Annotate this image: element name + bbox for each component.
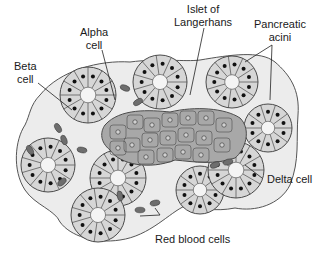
nucleus xyxy=(266,110,270,114)
nucleus xyxy=(215,70,219,74)
islet-nucleus xyxy=(163,153,167,157)
nucleus xyxy=(103,163,107,167)
islet-nucleus xyxy=(168,118,172,122)
nucleus xyxy=(49,145,53,149)
nucleus xyxy=(182,183,186,187)
nucleus xyxy=(91,111,95,115)
nucleus xyxy=(134,171,138,175)
acinus-lumen xyxy=(261,121,274,134)
nucleus xyxy=(68,98,72,102)
nucleus xyxy=(170,66,174,70)
nucleus xyxy=(176,85,180,89)
nucleus xyxy=(198,172,202,176)
nucleus xyxy=(221,181,225,185)
nucleus xyxy=(266,142,270,146)
nucleus xyxy=(68,88,72,92)
nucleus xyxy=(49,181,53,185)
islet-nucleus xyxy=(204,116,208,120)
acinus-lumen xyxy=(40,157,55,172)
islet-nucleus xyxy=(150,123,154,127)
nucleus xyxy=(188,201,192,205)
nucleus xyxy=(150,97,154,101)
nucleus xyxy=(176,75,180,79)
nucleus xyxy=(247,75,251,79)
nucleus xyxy=(111,158,115,162)
nucleus xyxy=(98,171,102,175)
label-alpha-cell: Alpha cell xyxy=(80,26,108,52)
nucleus xyxy=(247,85,251,89)
nucleus xyxy=(99,231,103,235)
islet-nucleus xyxy=(186,116,190,120)
nucleus xyxy=(73,80,77,84)
nucleus xyxy=(78,213,82,217)
nucleus xyxy=(282,131,286,135)
nucleus xyxy=(31,173,35,177)
red-blood-cell xyxy=(135,207,145,213)
nucleus xyxy=(140,80,144,84)
nucleus xyxy=(276,139,280,143)
nucleus xyxy=(198,204,202,208)
nucleus xyxy=(223,64,227,68)
islet-nucleus xyxy=(116,130,120,134)
nucleus xyxy=(247,181,251,185)
nucleus xyxy=(143,70,147,74)
nucleus xyxy=(81,111,85,115)
nucleus xyxy=(88,196,92,200)
label-red-blood-cells: Red blood cells xyxy=(155,233,230,246)
nucleus xyxy=(38,180,42,184)
label-pancreatic-acini: Pancreatic acini xyxy=(254,18,306,44)
nucleus xyxy=(64,158,68,162)
nucleus xyxy=(229,186,233,190)
label-beta-line1: Beta xyxy=(14,60,37,73)
nucleus xyxy=(282,121,286,125)
nucleus xyxy=(208,201,212,205)
nucleus xyxy=(38,146,42,150)
label-islet-line1: Islet of xyxy=(174,3,232,16)
nucleus xyxy=(104,98,108,102)
label-alpha-line1: Alpha xyxy=(80,26,108,39)
nucleus xyxy=(188,175,192,179)
nucleus xyxy=(114,208,118,212)
islet-nucleus xyxy=(220,143,224,147)
nucleus xyxy=(161,62,165,66)
nucleus xyxy=(28,163,32,167)
islet-nucleus xyxy=(181,150,185,154)
acinus xyxy=(71,188,125,242)
nucleus xyxy=(58,149,62,153)
nucleus xyxy=(239,186,243,190)
nucleus xyxy=(233,98,237,102)
label-islet-line2: Langerhans xyxy=(174,16,232,29)
nucleus xyxy=(99,80,103,84)
nucleus xyxy=(134,181,138,185)
acinus-lumen xyxy=(228,162,244,178)
nucleus xyxy=(99,106,103,110)
nucleus xyxy=(104,88,108,92)
nucleus xyxy=(91,75,95,79)
nucleus xyxy=(73,106,77,110)
acinus-lumen xyxy=(80,87,96,103)
nucleus xyxy=(114,218,118,222)
label-beta-line2: cell xyxy=(14,73,37,86)
acinus xyxy=(244,104,292,152)
nucleus xyxy=(88,230,92,234)
label-acini-line2: acini xyxy=(254,31,306,44)
islet-group xyxy=(102,109,247,166)
acinus xyxy=(60,67,116,123)
acinus xyxy=(206,56,258,108)
label-beta-cell: Beta cell xyxy=(14,60,37,86)
nucleus xyxy=(247,155,251,159)
islet-outline xyxy=(102,109,247,166)
nucleus xyxy=(242,67,246,71)
islet-nucleus xyxy=(148,138,152,142)
label-acini-line1: Pancreatic xyxy=(254,18,306,31)
nucleus xyxy=(214,193,218,197)
nucleus xyxy=(108,227,112,231)
nucleus xyxy=(216,173,220,177)
nucleus xyxy=(81,75,85,79)
nucleus xyxy=(223,96,227,100)
islet-nucleus xyxy=(199,153,203,157)
islet-nucleus xyxy=(222,123,226,127)
nucleus xyxy=(256,139,260,143)
islet-nucleus xyxy=(133,120,137,124)
nucleus xyxy=(256,113,260,117)
